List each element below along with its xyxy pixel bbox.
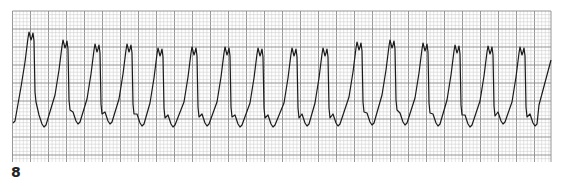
figure-label: 8 bbox=[11, 164, 21, 180]
ecg-grid bbox=[13, 11, 552, 162]
ecg-strip bbox=[0, 0, 561, 181]
